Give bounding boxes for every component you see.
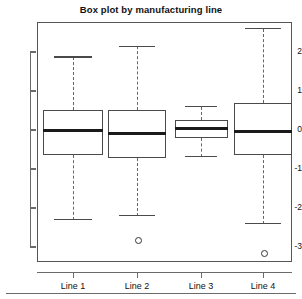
y-tick-mark [30,129,36,130]
whisker-lower [201,138,202,157]
x-tick-mark [263,272,264,278]
median-line [234,130,292,133]
y-tick-mark [30,168,36,169]
cap-upper [54,56,91,57]
y-tick-mark [30,51,36,52]
x-tick-mark [73,272,74,278]
y-tick-mark [30,90,36,91]
box-iqr [43,110,103,156]
cap-lower [185,156,218,157]
x-tick-label-1: Line 1 [43,281,103,291]
cap-upper [119,46,155,47]
x-tick-label-4: Line 4 [233,281,293,291]
median-line [175,127,228,130]
whisker-upper [73,57,74,110]
y-tick-label: -1 [280,163,302,173]
whisker-upper [201,107,202,121]
median-line [108,132,166,135]
x-tick-label-3: Line 3 [171,281,231,291]
median-line [43,129,103,132]
outlier-point [135,237,142,244]
x-axis-spine [37,272,292,273]
whisker-lower [73,155,74,219]
cap-lower [119,215,155,216]
y-tick-mark [30,246,36,247]
y-tick-label: 1 [280,85,302,95]
whisker-upper [137,46,138,110]
y-tick-label: -2 [280,202,302,212]
footer-divider [6,293,296,294]
whisker-upper [263,29,264,103]
boxplot-figure: Box plot by manufacturing line 210-1-2-3… [0,0,302,299]
x-tick-mark [201,272,202,278]
cap-upper [245,28,281,29]
y-tick-mark [30,207,36,208]
cap-lower [245,223,281,224]
whisker-lower [137,158,138,216]
x-tick-mark [137,272,138,278]
cap-upper [185,106,218,107]
y-tick-label: 2 [280,46,302,56]
outlier-point [261,250,268,257]
whisker-lower [263,155,264,223]
chart-title: Box plot by manufacturing line [0,4,302,15]
y-axis-spine [30,52,31,247]
y-tick-label: -3 [280,241,302,251]
x-tick-label-2: Line 2 [107,281,167,291]
cap-lower [54,219,91,220]
